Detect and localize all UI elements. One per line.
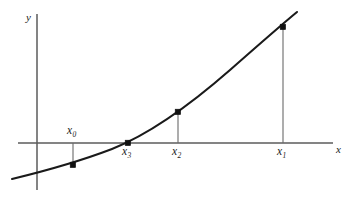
tick-label-x1: x1 [277,146,286,158]
newton-method-figure: y x x0 x3 x2 x1 [0,0,353,204]
function-curve [12,12,297,179]
point-marker-x1 [280,24,285,29]
point-marker-x2 [175,109,180,114]
tick-label-x0: x0 [67,125,76,137]
y-axis-label: y [26,12,31,23]
plot-canvas [0,0,353,204]
point-marker-x0 [70,162,75,167]
tick-label-x3: x3 [122,146,131,158]
tick-label-x2: x2 [172,146,181,158]
x-axis-label: x [336,144,341,155]
